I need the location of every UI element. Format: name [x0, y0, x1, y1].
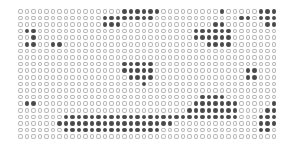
empty-dot — [271, 34, 278, 41]
empty-dot — [271, 61, 278, 68]
dot-grid — [17, 8, 277, 140]
filled-dot — [271, 120, 278, 127]
empty-dot — [271, 54, 278, 61]
empty-dot — [271, 81, 278, 88]
filled-dot — [271, 107, 278, 114]
empty-dot — [271, 41, 278, 48]
filled-dot — [271, 15, 278, 22]
empty-dot — [271, 133, 278, 140]
filled-dot — [271, 8, 278, 15]
filled-dot — [271, 100, 278, 107]
empty-dot — [271, 94, 278, 101]
filled-dot — [271, 114, 278, 121]
empty-dot — [271, 74, 278, 81]
empty-dot — [271, 67, 278, 74]
empty-dot — [271, 28, 278, 35]
empty-dot — [271, 127, 278, 134]
filled-dot — [271, 21, 278, 28]
empty-dot — [271, 48, 278, 55]
empty-dot — [271, 87, 278, 94]
